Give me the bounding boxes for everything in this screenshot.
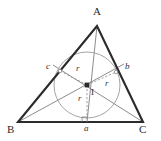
vertex-label-a: A (93, 6, 101, 17)
incircle-figure: A B C c b a r r r I (0, 0, 161, 141)
incenter-label: I (91, 88, 94, 97)
touch-point-b-marker (114, 70, 117, 73)
touch-point-label-b: b (125, 62, 130, 71)
geometry-canvas (0, 0, 161, 141)
bisector-from-a-line (87, 26, 97, 122)
radius-label-to-c: r (76, 64, 80, 73)
touch-point-c-marker (58, 69, 61, 72)
touch-point-label-a: a (84, 124, 89, 133)
triangle-abc (18, 26, 143, 122)
radius-label-to-a: r (78, 94, 82, 103)
vertex-label-b: B (7, 124, 14, 135)
bisector-from-b-line (18, 64, 124, 122)
vertex-label-c: C (139, 124, 146, 135)
radius-label-to-b: r (105, 79, 109, 88)
touch-point-label-c: c (46, 62, 50, 71)
incenter-marker (85, 83, 90, 88)
